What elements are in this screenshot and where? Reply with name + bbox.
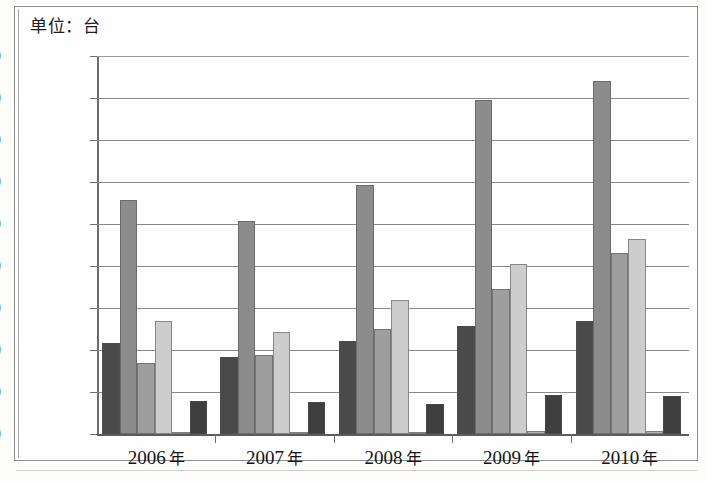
x-tick-separator-2 — [334, 434, 335, 443]
bar-2007-series-1[interactable] — [220, 357, 238, 434]
bar-2007-series-4[interactable] — [273, 332, 291, 434]
bar-2010-series-1[interactable] — [576, 321, 594, 434]
bar-2010-series-4[interactable] — [628, 239, 646, 434]
bar-2006-series-6[interactable] — [190, 401, 208, 434]
bar-2008-series-4[interactable] — [391, 300, 409, 434]
y-tick-label-45000: 45000 — [0, 45, 1, 67]
y-tick-label-5000: 5000 — [0, 381, 1, 403]
y-tick-mark-15000 — [90, 308, 97, 309]
bar-2008-series-1[interactable] — [339, 341, 357, 434]
y-tick-label-0: 0 — [0, 423, 1, 445]
x-axis-label-year: 2007 — [246, 447, 284, 468]
y-tick-mark-35000 — [90, 140, 97, 141]
bar-2008-series-2[interactable] — [356, 185, 374, 434]
bar-2006-series-2[interactable] — [120, 200, 138, 434]
bar-2010-series-6[interactable] — [663, 396, 681, 434]
x-axis-label-2006: 2006年 — [128, 445, 185, 469]
x-axis-label-year: 2008 — [365, 447, 403, 468]
y-tick-label-35000: 35000 — [0, 129, 1, 151]
bar-group-2010 — [571, 56, 689, 434]
x-axis-label-2008: 2008年 — [365, 445, 422, 469]
y-tick-mark-5000 — [90, 392, 97, 393]
y-tick-label-25000: 25000 — [0, 213, 1, 235]
y-tick-label-40000: 40000 — [0, 87, 1, 109]
bar-2008-series-3[interactable] — [374, 329, 392, 434]
x-axis-label-year: 2009 — [483, 447, 521, 468]
bar-2010-series-3[interactable] — [611, 253, 629, 434]
y-tick-mark-10000 — [90, 350, 97, 351]
bar-2010-series-2[interactable] — [593, 81, 611, 434]
y-tick-mark-0 — [90, 434, 97, 435]
y-tick-label-15000: 15000 — [0, 297, 1, 319]
x-axis-label-suffix: 年 — [524, 449, 540, 468]
x-tick-separator-4 — [571, 434, 572, 443]
bar-2007-series-6[interactable] — [308, 402, 326, 434]
bar-2009-series-1[interactable] — [457, 326, 475, 434]
bar-2007-series-2[interactable] — [238, 221, 256, 434]
bar-2006-series-3[interactable] — [137, 363, 155, 434]
bar-2006-series-4[interactable] — [155, 321, 173, 434]
x-axis-label-year: 2006 — [128, 447, 166, 468]
x-axis-label-suffix: 年 — [642, 449, 658, 468]
bar-group-2007 — [215, 56, 333, 434]
bar-2009-series-4[interactable] — [510, 264, 528, 434]
x-axis-label-suffix: 年 — [406, 449, 422, 468]
y-tick-label-20000: 20000 — [0, 255, 1, 277]
y-tick-mark-30000 — [90, 182, 97, 183]
x-axis-label-suffix: 年 — [287, 449, 303, 468]
bar-2009-series-2[interactable] — [475, 100, 493, 434]
bar-2009-series-6[interactable] — [545, 395, 563, 434]
x-tick-separator-3 — [452, 434, 453, 443]
bar-group-2009 — [452, 56, 570, 434]
x-axis-label-suffix: 年 — [169, 449, 185, 468]
x-axis-label-year: 2010 — [601, 447, 639, 468]
bar-2008-series-6[interactable] — [426, 404, 444, 434]
bar-2009-series-3[interactable] — [492, 289, 510, 434]
y-tick-mark-20000 — [90, 266, 97, 267]
bottom-rule — [16, 470, 697, 471]
y-tick-mark-40000 — [90, 98, 97, 99]
y-tick-label-10000: 10000 — [0, 339, 1, 361]
bar-group-2008 — [334, 56, 452, 434]
unit-caption: 单位：台 — [30, 12, 100, 37]
x-tick-separator-1 — [215, 434, 216, 443]
x-axis: 2006年2007年2008年2009年2010年 — [97, 434, 689, 480]
y-tick-mark-25000 — [90, 224, 97, 225]
chart-page: 单位：台 05000100001500020000250003000035000… — [0, 0, 707, 481]
x-axis-label-2007: 2007年 — [246, 445, 303, 469]
x-axis-label-2009: 2009年 — [483, 445, 540, 469]
plot-area — [97, 56, 689, 434]
x-axis-label-2010: 2010年 — [601, 445, 658, 469]
bar-2006-series-1[interactable] — [102, 343, 120, 434]
y-tick-mark-45000 — [90, 56, 97, 57]
y-tick-label-30000: 30000 — [0, 171, 1, 193]
bar-2007-series-3[interactable] — [255, 355, 273, 434]
bar-group-2006 — [97, 56, 215, 434]
